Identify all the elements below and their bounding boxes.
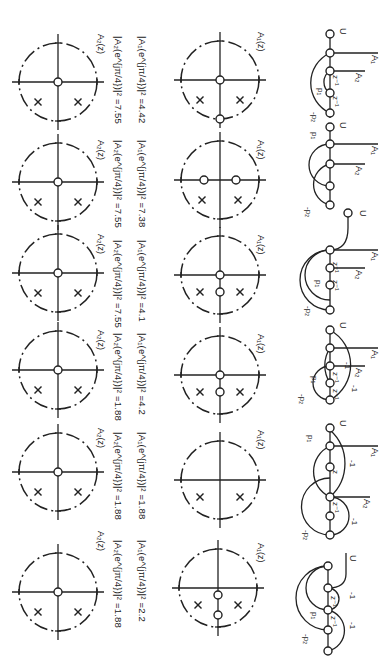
a1-pole-zero-plot-2	[174, 132, 266, 228]
label-delay: z⁻¹	[331, 280, 340, 291]
flow-graph-6: U -1 -1 z⁻¹ z⁻¹ p₁ -p₂	[296, 553, 358, 655]
label-neg1: -1	[348, 460, 357, 468]
label-A2: A₂	[362, 499, 372, 509]
label-delay: z⁻¹	[331, 262, 340, 273]
a2-plot-label: A₂(z)	[96, 234, 106, 254]
label-p1: p₁	[316, 88, 325, 95]
a2-plot-label: A₂(z)	[96, 428, 106, 448]
label-A2: A₂	[354, 368, 364, 378]
a1-plot-label: A₁(z)	[256, 430, 266, 450]
rotated-figure: U A₁ A₂ z⁻¹ z⁻¹ p₁ -p₂ A₁(z) A₂(z)	[0, 0, 380, 663]
label-p1: p₁	[310, 132, 319, 139]
figure-canvas: U A₁ A₂ z⁻¹ z⁻¹ p₁ -p₂ A₁(z) A₂(z)	[0, 0, 380, 663]
a1-magnitude-row-5: |A₁(e^{jπ/4})|² =1.88	[137, 432, 148, 520]
flow-graph-2: U A₁ A₂ p₁ -p₂	[304, 122, 380, 217]
label-A2: A₂	[354, 73, 364, 83]
label-neg-p2: -p₂	[302, 530, 311, 540]
label-p1: p₁	[314, 280, 323, 287]
a1-plot-label: A₁(z)	[256, 543, 266, 563]
a2-pole-zero-plot-1	[12, 34, 104, 130]
label-A1: A₁	[370, 55, 380, 64]
row-3: U A₁ A₂ z⁻¹ z⁻¹ p₁ -p₂ A₁(z) A₂(z)	[12, 209, 380, 323]
a2-magnitude-row-1: |A₂(e^{jπ/4})|² =7.55	[113, 36, 124, 124]
a2-magnitude-row-3: |A₂(e^{jπ/4})|² =7.55	[113, 240, 124, 328]
label-delay: z⁻¹	[331, 96, 340, 107]
a2-pole-zero-plot-6	[12, 544, 104, 640]
label-U: U	[348, 555, 358, 562]
flow-graph-4: U A₁ A₂ -1 -1 z⁻¹ z⁻¹ p₁ -p₂	[298, 322, 380, 404]
label-delay: z⁻¹	[329, 616, 338, 627]
a2-magnitude-row-6: |A₂(e^{jπ/4})|² =1.88	[113, 540, 124, 628]
a2-pole-zero-plot-2	[12, 134, 104, 230]
label-p1: p₁	[310, 612, 319, 619]
label-A1: A₁	[370, 448, 380, 457]
row-1: U A₁ A₂ z⁻¹ z⁻¹ p₁ -p₂ A₁(z) A₂(z)	[12, 28, 380, 130]
label-neg-p2: -p₂	[304, 306, 313, 316]
a1-plot-label: A₁(z)	[256, 32, 266, 52]
flow-graph-5: U A₁ A₂ -1 -1 z z⁻¹ p₁ -p₂	[301, 420, 380, 540]
label-U: U	[338, 122, 348, 129]
a1-magnitude-row-4: |A₁(e^{jπ/4})|² =4.2	[137, 333, 148, 415]
a2-plot-label: A₂(z)	[96, 140, 106, 160]
label-A2: A₂	[354, 270, 364, 280]
a2-magnitude-row-5: |A₂(e^{jπ/4})|² =1.88	[113, 432, 124, 520]
a2-plot-label: A₂(z)	[96, 34, 106, 54]
a1-magnitude-row-6: |A₁(e^{jπ/4})|² =2.2	[137, 540, 148, 622]
label-A1: A₁	[370, 252, 380, 261]
label-delay: z⁻¹	[329, 596, 338, 607]
label-neg1: -1	[343, 362, 352, 370]
label-neg-p2: -p₂	[310, 112, 319, 122]
flow-graph-3: U A₁ A₂ z⁻¹ z⁻¹ p₁ -p₂	[300, 209, 380, 316]
a1-magnitude-row-2: |A₁(e^{jπ/4})|² =7.38	[137, 140, 148, 228]
label-delay: z⁻¹	[331, 389, 340, 400]
a1-plot-label: A₁(z)	[256, 140, 266, 160]
label-neg1: -1	[348, 622, 357, 630]
a1-pole-zero-plot-3	[174, 227, 266, 323]
label-neg-p2: -p₂	[298, 394, 307, 404]
a1-pole-zero-plot-4	[174, 327, 266, 423]
label-U: U	[338, 28, 348, 35]
label-delay: z⁻¹	[331, 502, 340, 513]
row-6: U -1 -1 z⁻¹ z⁻¹ p₁ -p₂ A₁(z) A₂(z)	[12, 531, 358, 655]
a1-magnitude-row-1: |A₁(e^{jπ/4})|² =4.42	[137, 36, 148, 124]
label-U: U	[358, 210, 368, 217]
a1-pole-zero-plot-5	[174, 432, 266, 528]
a2-pole-zero-plot-3	[12, 225, 104, 321]
row-2: U A₁ A₂ p₁ -p₂ A₁(z) A₂(z)	[12, 122, 380, 230]
label-A2: A₂	[354, 166, 364, 176]
label-p1: p₁	[310, 376, 319, 383]
row-5: U A₁ A₂ -1 -1 z z⁻¹ p₁ -p₂ A₁(z) A₂(z)	[12, 420, 380, 540]
label-U: U	[338, 420, 348, 427]
label-p1: p₁	[306, 435, 315, 442]
a1-magnitude-row-3: |A₁(e^{jπ/4})|² =4.1	[137, 240, 148, 322]
label-neg-p2: -p₂	[304, 207, 313, 217]
label-neg1: -1	[350, 518, 359, 526]
row-4: U A₁ A₂ -1 -1 z⁻¹ z⁻¹ p₁ -p₂ A₁(z) A₂(z)	[12, 322, 380, 423]
label-U: U	[338, 322, 348, 329]
flow-graph-1: U A₁ A₂ z⁻¹ z⁻¹ p₁ -p₂	[310, 28, 380, 122]
a1-pole-zero-plot-1	[174, 32, 266, 128]
a1-pole-zero-plot-6	[172, 540, 264, 636]
a2-magnitude-row-2: |A₂(e^{jπ/4})|² =7.55	[113, 140, 124, 228]
label-A1: A₁	[370, 350, 380, 359]
label-delay: z⁻¹	[331, 75, 340, 86]
a1-plot-label: A₁(z)	[256, 235, 266, 255]
a2-pole-zero-plot-4	[12, 322, 104, 418]
label-neg1: -1	[350, 385, 359, 393]
label-A1: A₁	[370, 146, 380, 155]
a2-plot-label: A₂(z)	[96, 531, 106, 551]
label-delay: z⁻¹	[331, 372, 340, 383]
a1-plot-label: A₁(z)	[256, 334, 266, 354]
a2-magnitude-row-4: |A₂(e^{jπ/4})|² =1.88	[113, 333, 124, 421]
a2-plot-label: A₂(z)	[96, 330, 106, 350]
a2-pole-zero-plot-5	[12, 424, 104, 520]
label-z: z	[331, 470, 340, 474]
label-neg-p2: -p₂	[302, 634, 311, 644]
label-neg1: -1	[348, 592, 357, 600]
